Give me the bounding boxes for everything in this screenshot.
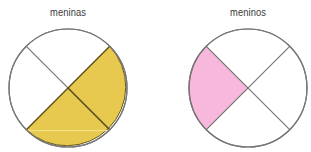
girls-fraction-circle [9, 29, 127, 147]
boys-fraction-circle [189, 29, 307, 147]
fraction-circles [0, 0, 311, 152]
